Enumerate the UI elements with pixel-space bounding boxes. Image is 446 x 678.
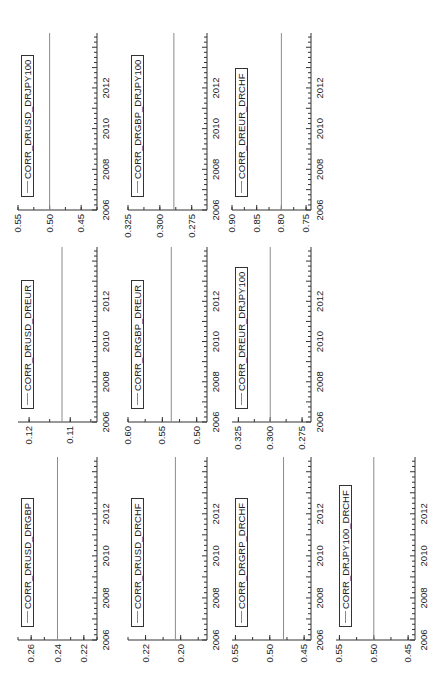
y-tick-label: 0.55 bbox=[156, 426, 167, 445]
y-tick-label: 0.45 bbox=[75, 214, 86, 233]
x-tick-label: 2012 bbox=[210, 291, 221, 312]
x-tick-label: 2006 bbox=[418, 629, 429, 650]
chart-corr-drusd-drchf: 0.220.202006200820102012CORR_DRUSD_DRCHF bbox=[128, 457, 207, 640]
legend-swatch-icon bbox=[241, 393, 242, 405]
y-tick-label: 0.45 bbox=[402, 644, 413, 663]
legend-label: CORR_DRUSD_DREUR bbox=[22, 285, 33, 391]
chart-corr-drgbp-drjpy100: 0.3250.3000.2752006200820102012CORR_DRGB… bbox=[128, 33, 207, 210]
x-tick-label: 2010 bbox=[100, 118, 111, 139]
legend-swatch-icon bbox=[137, 611, 138, 623]
y-tick-label: 0.45 bbox=[298, 644, 309, 663]
x-tick-label: 2010 bbox=[418, 545, 429, 566]
x-tick-label: 2008 bbox=[100, 371, 111, 392]
legend-swatch-icon bbox=[27, 611, 28, 623]
y-tick-label: 0.50 bbox=[264, 644, 275, 663]
legend-swatch-icon bbox=[137, 181, 138, 193]
x-tick-label: 2010 bbox=[210, 331, 221, 352]
legend: CORR_DRGRP_DRCHF bbox=[235, 498, 248, 627]
y-tick-label: 0.85 bbox=[251, 214, 262, 233]
x-tick-label: 2008 bbox=[314, 371, 325, 392]
y-tick-label: 0.300 bbox=[154, 214, 165, 238]
x-tick-label: 2010 bbox=[314, 331, 325, 352]
y-tick-label: 0.22 bbox=[140, 644, 151, 663]
chart-corr-dreur-drjpy100: 0.3250.3000.2752006200820102012CORR_DREU… bbox=[232, 247, 311, 422]
x-tick-label: 2010 bbox=[210, 545, 221, 566]
legend-swatch-icon bbox=[345, 611, 346, 623]
y-tick-label: 0.275 bbox=[296, 426, 307, 450]
y-tick-label: 0.20 bbox=[175, 644, 186, 663]
legend: CORR_DRUSD_DRCHF bbox=[131, 498, 144, 627]
legend-label: CORR_DRGBP_DRJPY100 bbox=[132, 60, 143, 179]
x-tick-label: 2008 bbox=[100, 159, 111, 180]
y-tick-label: 0.55 bbox=[12, 214, 23, 233]
y-tick-label: 0.24 bbox=[52, 644, 63, 663]
y-tick-label: 0.300 bbox=[264, 426, 275, 450]
x-tick-label: 2010 bbox=[100, 331, 111, 352]
y-tick-label: 0.75 bbox=[300, 214, 311, 233]
y-tick-label: 0.12 bbox=[23, 426, 34, 445]
x-tick-label: 2008 bbox=[210, 159, 221, 180]
x-tick-label: 2006 bbox=[314, 629, 325, 650]
chart-corr-drgrp-drchf: 0.550.500.452006200820102012CORR_DRGRP_D… bbox=[232, 457, 311, 640]
legend-swatch-icon bbox=[137, 393, 138, 405]
legend: CORR_DRUSD_DREUR bbox=[21, 280, 34, 409]
x-tick-label: 2008 bbox=[418, 587, 429, 608]
legend-swatch-icon bbox=[241, 181, 242, 193]
x-tick-label: 2010 bbox=[314, 118, 325, 139]
legend-label: CORR_DRGBP_DREUR bbox=[132, 285, 143, 391]
legend: CORR_DREUR_DRJPY100 bbox=[235, 267, 248, 409]
y-tick-label: 0.275 bbox=[186, 214, 197, 238]
y-tick-label: 0.50 bbox=[191, 426, 202, 445]
legend: CORR_DRUSD_DRJPY100 bbox=[21, 55, 34, 197]
legend-swatch-icon bbox=[241, 611, 242, 623]
x-tick-label: 2006 bbox=[314, 199, 325, 220]
x-tick-label: 2006 bbox=[100, 411, 111, 432]
x-tick-label: 2012 bbox=[100, 291, 111, 312]
legend: CORR_DRUSD_DRGBP bbox=[21, 498, 34, 627]
y-tick-label: 0.80 bbox=[275, 214, 286, 233]
x-tick-label: 2006 bbox=[210, 629, 221, 650]
x-tick-label: 2006 bbox=[210, 199, 221, 220]
chart-corr-drjpy100-drchf: 0.550.500.452006200820102012CORR_DRJPY10… bbox=[336, 457, 415, 640]
chart-grid: 0.260.240.222006200820102012CORR_DRUSD_D… bbox=[0, 0, 446, 678]
y-tick-label: 0.60 bbox=[122, 426, 133, 445]
y-tick-label: 0.50 bbox=[44, 214, 55, 233]
x-tick-label: 2012 bbox=[418, 503, 429, 524]
y-tick-label: 0.22 bbox=[78, 644, 89, 663]
x-tick-label: 2008 bbox=[314, 587, 325, 608]
y-tick-label: 0.55 bbox=[333, 644, 344, 663]
legend: CORR_DRGBP_DREUR bbox=[131, 280, 144, 409]
x-tick-label: 2006 bbox=[210, 411, 221, 432]
chart-corr-drusd-drgbp: 0.260.240.222006200820102012CORR_DRUSD_D… bbox=[18, 457, 97, 640]
legend: CORR_DRJPY100_DRCHF bbox=[339, 485, 352, 627]
legend-label: CORR_DRGRP_DRCHF bbox=[236, 503, 247, 609]
x-tick-label: 2008 bbox=[210, 371, 221, 392]
x-tick-label: 2012 bbox=[210, 503, 221, 524]
x-tick-label: 2010 bbox=[210, 118, 221, 139]
y-tick-label: 0.50 bbox=[368, 644, 379, 663]
y-tick-label: 0.90 bbox=[226, 214, 237, 233]
x-tick-label: 2012 bbox=[100, 503, 111, 524]
legend-label: CORR_DRUSD_DRGBP bbox=[22, 503, 33, 609]
legend-label: CORR_DRUSD_DRCHF bbox=[132, 503, 143, 609]
legend-swatch-icon bbox=[27, 181, 28, 193]
x-tick-label: 2010 bbox=[100, 545, 111, 566]
y-tick-label: 0.55 bbox=[229, 644, 240, 663]
chart-corr-drusd-dreur: 0.120.112006200820102012CORR_DRUSD_DREUR bbox=[18, 247, 97, 422]
legend: CORR_DRGBP_DRJPY100 bbox=[131, 55, 144, 197]
legend-swatch-icon bbox=[27, 393, 28, 405]
x-tick-label: 2006 bbox=[100, 629, 111, 650]
x-tick-label: 2012 bbox=[314, 503, 325, 524]
x-tick-label: 2012 bbox=[100, 77, 111, 98]
y-tick-label: 0.26 bbox=[25, 644, 36, 663]
chart-corr-drgbp-dreur: 0.600.550.502006200820102012CORR_DRGBP_D… bbox=[128, 247, 207, 422]
x-tick-label: 2012 bbox=[314, 291, 325, 312]
legend: CORR_DREUR_DRCHF bbox=[235, 68, 248, 197]
x-tick-label: 2008 bbox=[210, 587, 221, 608]
chart-corr-dreur-drchf: 0.900.850.800.752006200820102012CORR_DRE… bbox=[232, 33, 311, 210]
y-tick-label: 0.325 bbox=[232, 426, 243, 450]
x-tick-label: 2010 bbox=[314, 545, 325, 566]
x-tick-label: 2008 bbox=[100, 587, 111, 608]
x-tick-label: 2012 bbox=[210, 77, 221, 98]
chart-corr-drusd-drjpy100: 0.550.500.452006200820102012CORR_DRUSD_D… bbox=[18, 33, 97, 210]
